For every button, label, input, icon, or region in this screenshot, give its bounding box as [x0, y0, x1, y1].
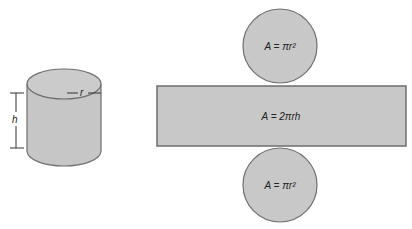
- cylinder-top: [27, 69, 101, 99]
- net-top-circle: A = πr²: [243, 9, 317, 83]
- top-circle-formula: A = πr²: [263, 41, 296, 52]
- bottom-circle-formula: A = πr²: [263, 180, 296, 191]
- height-label: h: [12, 114, 18, 125]
- net-rectangle: A = 2πrh: [157, 86, 406, 146]
- net-bottom-circle: A = πr²: [243, 148, 317, 222]
- cylinder: r h: [10, 69, 101, 166]
- rectangle-formula: A = 2πrh: [261, 111, 301, 122]
- cylinder-net-diagram: r h A = πr² A = πr² A = 2πrh: [0, 0, 412, 229]
